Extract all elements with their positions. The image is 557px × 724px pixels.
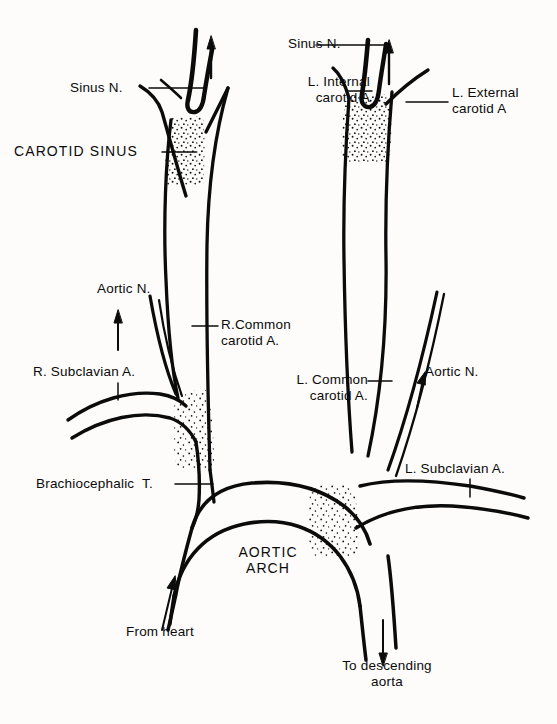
leader-lines xyxy=(118,45,470,497)
right-sinus-nerve-twig xyxy=(161,80,181,98)
left-aortic-nerve-arrow-up xyxy=(417,372,425,408)
left-subclavian-inferior-wall xyxy=(356,506,528,528)
left-aortic-nerve xyxy=(388,292,437,470)
label-carotid-sinus: CAROTID SINUS xyxy=(14,143,138,159)
label-l-subclavian: L. Subclavian A. xyxy=(405,461,505,477)
left-subclavian-superior-wall xyxy=(360,481,524,498)
label-l-internal-carotid: L. Internal carotid A xyxy=(258,74,370,106)
descending-aorta-right-wall xyxy=(388,556,396,648)
label-l-external-carotid: L. External carotid A xyxy=(452,85,519,117)
label-sinus-n-right: Sinus N. xyxy=(70,80,123,96)
left-aortic-nerve-second-line xyxy=(396,294,444,476)
right-aortic-nerve-arrow-up xyxy=(114,310,122,350)
right-sinus-nerve-trunk xyxy=(188,30,196,100)
label-aortic-n-left-side: Aortic N. xyxy=(97,281,151,297)
label-to-descending-aorta: To descending aorta xyxy=(322,658,452,690)
right-common-carotid-lateral-wall xyxy=(207,88,228,470)
label-sinus-n-left: Sinus N. xyxy=(288,36,341,52)
label-from-heart: From heart xyxy=(126,624,194,640)
label-l-common-carotid: L. Common carotid A. xyxy=(248,372,368,404)
label-r-subclavian: R. Subclavian A. xyxy=(33,364,135,380)
label-aortic-arch: AORTIC ARCH xyxy=(218,544,318,576)
label-brachiocephalic: Brachiocephalic T. xyxy=(36,476,153,492)
right-aortic-nerve xyxy=(150,296,176,394)
ascending-aorta-right-wall xyxy=(170,596,174,624)
label-r-common-carotid: R.Common carotid A. xyxy=(221,317,291,349)
label-aortic-n-right-side: Aortic N. xyxy=(425,364,479,380)
figure-canvas: Sinus N. CAROTID SINUS Sinus N. L. Inter… xyxy=(0,0,557,724)
descending-aorta-left-wall xyxy=(360,606,366,660)
